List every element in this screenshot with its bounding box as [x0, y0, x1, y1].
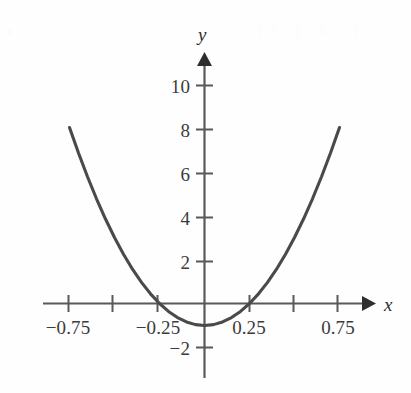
- y-axis-arrow-icon: [197, 52, 212, 66]
- x-tick-label-pos025: 0.25: [232, 318, 266, 337]
- y-tick-label-10: 10: [162, 77, 190, 96]
- y-tick-label-2: 2: [162, 253, 190, 272]
- x-tick-label-pos075: 0.75: [321, 318, 355, 337]
- y-tick-label-4: 4: [162, 209, 190, 228]
- y-axis-label: y: [198, 25, 206, 44]
- chart-canvas: −0.75 −0.25 0.25 0.75 10 8 6 4 2 −2 y x: [0, 0, 411, 393]
- x-tick-label-neg025: −0.25: [136, 318, 180, 337]
- y-tick-label-8: 8: [162, 121, 190, 140]
- x-axis-arrow-icon: [362, 296, 376, 311]
- x-tick-label-neg075: −0.75: [46, 318, 90, 337]
- y-tick-label-6: 6: [162, 165, 190, 184]
- y-tick-label-neg2: −2: [152, 339, 190, 358]
- x-axis-label: x: [384, 295, 392, 314]
